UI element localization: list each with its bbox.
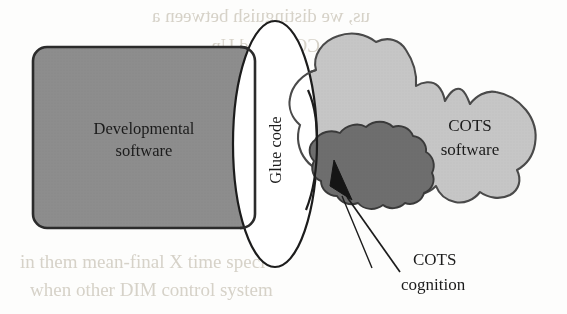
cots-software-label-line2: software: [441, 140, 500, 159]
bleed-line-bottom-2: when other DIM control system: [30, 279, 273, 300]
developmental-software-label-line2: software: [116, 141, 173, 160]
figure-canvas: us, we distinguish between a COTS and Un…: [0, 0, 567, 314]
bleed-line-bottom-1: in them mean-final X time speci: [20, 251, 265, 272]
cots-software-label-line1: COTS: [448, 116, 491, 135]
bleed-line-top-1: us, we distinguish between a: [151, 5, 370, 26]
cots-integration-diagram: us, we distinguish between a COTS and Un…: [0, 0, 567, 314]
cots-cognition-label-line2: cognition: [401, 275, 466, 294]
cots-cognition-label-line1: COTS: [413, 250, 456, 269]
developmental-software-label-line1: Developmental: [94, 119, 195, 138]
glue-code-label: Glue code: [266, 116, 285, 183]
